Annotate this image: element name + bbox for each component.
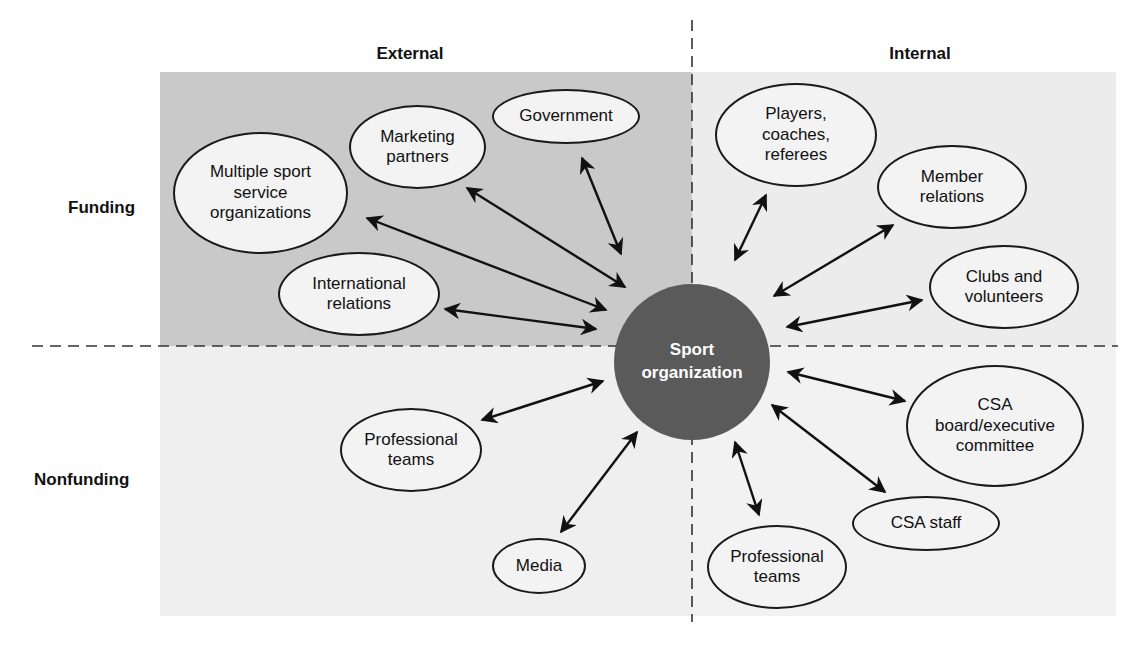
arrow-csa-staff	[772, 405, 885, 492]
node-clubs-and-volunteers: Clubs and volunteers	[929, 245, 1079, 329]
arrow-professional-internal	[735, 442, 759, 515]
node-csa-board-executive-committee: CSA board/executive committee	[906, 365, 1084, 487]
node-international-relations: International relations	[278, 252, 440, 336]
node-professional-teams-internal: Professional teams	[707, 525, 847, 609]
arrow-professional-external	[482, 381, 603, 420]
node-professional-teams-external: Professional teams	[340, 408, 482, 492]
node-players-coaches-referees: Players, coaches, referees	[715, 83, 877, 187]
arrow-players	[735, 195, 766, 260]
node-marketing-partners: Marketing partners	[349, 105, 486, 189]
stakeholder-diagram: External Internal Funding Nonfunding	[0, 0, 1142, 653]
arrow-media	[561, 432, 637, 532]
node-multiple-sport-service-organizations: Multiple sport service organizations	[173, 132, 348, 254]
arrow-member	[774, 225, 893, 296]
arrow-csa-board	[788, 372, 905, 401]
node-media: Media	[492, 538, 586, 594]
arrow-government	[582, 158, 621, 254]
node-government: Government	[492, 89, 640, 144]
node-csa-staff: CSA staff	[852, 496, 1000, 551]
node-member-relations: Member relations	[877, 145, 1027, 229]
arrow-international	[445, 309, 596, 329]
arrow-clubs	[787, 300, 922, 327]
sport-organization-node: Sport organization	[614, 284, 770, 440]
